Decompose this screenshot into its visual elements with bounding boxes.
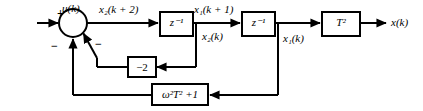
- block-label-delay2: z⁻¹: [242, 17, 275, 28]
- label-output-signal: x(k): [391, 17, 408, 28]
- label-after-second-delay-signal: x₁(k): [283, 33, 304, 44]
- block-label-feedback-omega: ω²T² +1: [152, 89, 208, 100]
- block-label-delay1: z⁻¹: [160, 17, 193, 28]
- sign-outer-feedback-minus: −: [51, 40, 58, 52]
- label-sum-output-signal: x₂(k + 2): [99, 4, 138, 15]
- block-diagram: u(k) x₂(k + 2) x₁(k + 1) x₂(k) x₁(k) x(k…: [0, 0, 423, 111]
- label-first-delay-tap-signal: x₂(k): [202, 31, 223, 42]
- sign-input-plus: +: [57, 7, 64, 19]
- label-input-signal: u(k): [62, 3, 80, 14]
- block-label-gain-t2: T²: [322, 17, 360, 28]
- block-label-gain-neg2: −2: [128, 62, 156, 73]
- sign-inner-feedback-minus: −: [95, 38, 102, 50]
- label-after-first-delay-signal: x₁(k + 1): [194, 4, 233, 15]
